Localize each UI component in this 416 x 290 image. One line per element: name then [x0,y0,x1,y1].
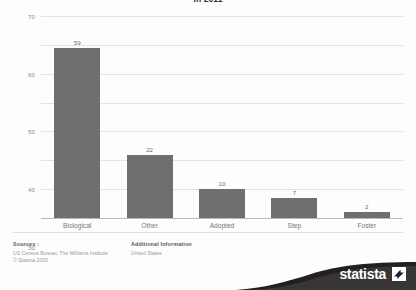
x-axis-category-label: Foster [328,222,406,229]
plot-area: Share of children 010203040506070 59Biol… [41,16,403,218]
bar[interactable] [199,189,245,218]
sources-line: © Statista 2015 [13,257,108,264]
additional-info-line: United States [131,250,192,257]
additional-info-block: Additional Information United States [131,241,192,257]
bar[interactable] [271,198,317,218]
bar[interactable] [344,212,390,218]
additional-info-heading: Additional Information [131,241,192,247]
sources-line: US Census Bureau; The Williams Institute [13,250,108,257]
x-axis-category-label: Adopted [183,222,261,229]
bar-series: 59Biological22Other10Adopted7Step2Foster [41,16,403,218]
statista-wordmark: statista [339,267,386,281]
chart-title-band: in 2011 [0,0,416,7]
bar-group[interactable]: 7Step [271,16,317,218]
y-axis-tick-label: 70 [15,13,35,20]
x-axis-category-label: Step [255,222,333,229]
statista-logo[interactable]: statista [216,252,416,290]
x-axis-category-label: Other [111,222,189,229]
bar-group[interactable]: 2Foster [344,16,390,218]
logo-swoosh-shape [216,252,416,290]
bar[interactable] [54,48,100,218]
footer-divider [13,232,403,233]
gridline: 0 [41,218,403,219]
bar-group[interactable]: 10Adopted [199,16,245,218]
page-title: in 2011 [0,0,416,5]
bar[interactable] [127,155,173,218]
bar-group[interactable]: 59Biological [54,16,100,218]
bar-value-label: 59 [54,39,100,46]
sources-heading: Sources : [13,241,108,247]
sources-block: Sources : US Census Bureau; The Williams… [13,241,108,264]
chart-page: in 2011 Share of children 01020304050607… [0,0,416,290]
bar-value-label: 7 [271,189,317,196]
statista-mark-icon [392,267,406,281]
y-axis-tick-label: 50 [15,128,35,135]
chart-footer: Sources : US Census Bureau; The Williams… [0,232,416,290]
bar-value-label: 22 [127,146,173,153]
y-axis-tick-label: 60 [15,70,35,77]
bar-value-label: 2 [344,203,390,210]
x-axis-category-label: Biological [38,222,116,229]
y-axis-tick-label: 40 [15,186,35,193]
bar-group[interactable]: 22Other [127,16,173,218]
bar-value-label: 10 [199,180,245,187]
